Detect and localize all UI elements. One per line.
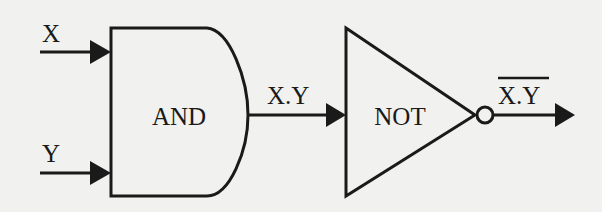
input-x: X bbox=[40, 20, 111, 64]
input-y: Y bbox=[40, 140, 111, 185]
and-gate-label: AND bbox=[152, 103, 206, 130]
input-y-label: Y bbox=[42, 140, 60, 167]
and-output-arrow-icon bbox=[326, 103, 346, 127]
input-y-arrow-icon bbox=[90, 161, 111, 185]
not-gate-label: NOT bbox=[374, 103, 425, 130]
logic-diagram: X Y AND X.Y NOT bbox=[0, 0, 602, 212]
inversion-bubble-icon bbox=[477, 107, 493, 123]
final-output-label: X.Y bbox=[498, 82, 540, 109]
and-gate: AND bbox=[111, 28, 248, 196]
and-output-label: X.Y bbox=[267, 82, 309, 109]
final-output-arrow-icon bbox=[555, 103, 575, 127]
final-output: X.Y bbox=[493, 78, 575, 127]
input-x-arrow-icon bbox=[90, 40, 111, 64]
not-gate: NOT bbox=[346, 28, 493, 196]
and-to-not-wire: X.Y bbox=[248, 82, 346, 127]
input-x-label: X bbox=[42, 20, 60, 47]
